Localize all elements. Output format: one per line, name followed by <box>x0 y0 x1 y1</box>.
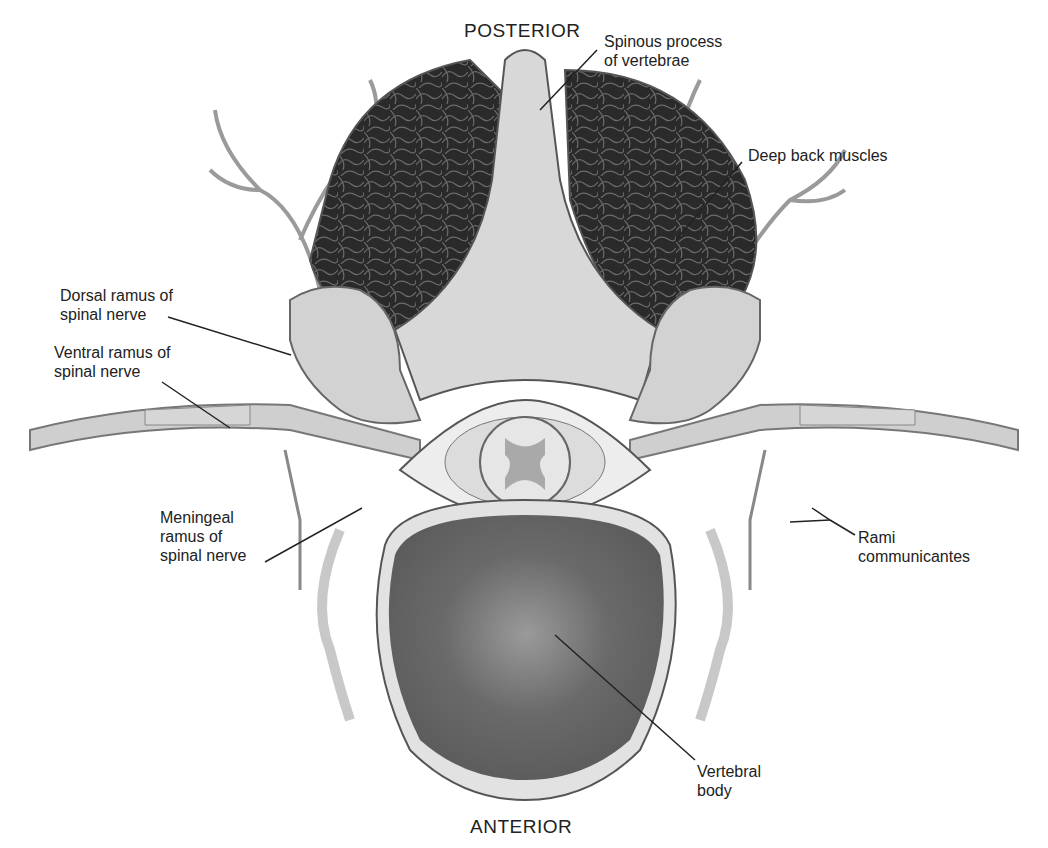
posterior-label: POSTERIOR <box>464 20 580 42</box>
label-spinous-process: Spinous process of vertebrae <box>604 32 722 70</box>
label-ventral-ramus: Ventral ramus of spinal nerve <box>54 343 171 381</box>
label-rami-communicantes: Rami communicantes <box>858 528 970 566</box>
anterior-label: ANTERIOR <box>470 816 572 838</box>
spinal-anatomy-illustration <box>0 0 1048 848</box>
label-vertebral-body: Vertebral body <box>697 762 761 800</box>
label-deep-back-muscles: Deep back muscles <box>748 146 888 165</box>
label-dorsal-ramus: Dorsal ramus of spinal nerve <box>60 286 173 324</box>
label-meningeal-ramus: Meningeal ramus of spinal nerve <box>160 508 246 565</box>
